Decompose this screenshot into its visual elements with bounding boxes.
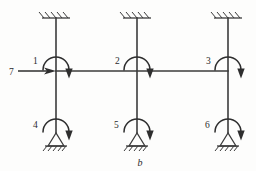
fixed-support-top-column-2 xyxy=(120,12,151,18)
dof-label-1: 1 xyxy=(33,56,38,66)
moment-arrow-dof-1 xyxy=(43,57,73,79)
moment-arrow-dof-4 xyxy=(43,119,73,141)
dof-label-3: 3 xyxy=(206,56,211,66)
pinned-support-node-6 xyxy=(215,133,239,151)
moment-arrow-dof-6 xyxy=(215,119,245,141)
moment-arrow-dof-5 xyxy=(124,119,154,141)
horizontal-force-arrow-dof-7 xyxy=(18,68,56,75)
dof-label-5: 5 xyxy=(114,120,119,130)
moment-arrow-dof-3 xyxy=(215,57,245,79)
fixed-support-top-column-1 xyxy=(39,12,70,18)
figure-caption: b xyxy=(138,157,143,168)
dof-label-6: 6 xyxy=(205,120,210,130)
frame-diagram-canvas: 1 2 3 4 5 6 7 b xyxy=(0,0,256,171)
dof-label-2: 2 xyxy=(115,56,120,66)
pinned-support-node-5 xyxy=(124,133,148,151)
fixed-support-top-column-3 xyxy=(211,12,242,18)
structural-frame-figure: 1 2 3 4 5 6 7 b xyxy=(0,0,256,171)
pinned-support-node-4 xyxy=(43,133,67,151)
dof-label-7: 7 xyxy=(9,67,14,77)
dof-label-4: 4 xyxy=(33,120,38,130)
moment-arrow-dof-2 xyxy=(124,57,154,79)
